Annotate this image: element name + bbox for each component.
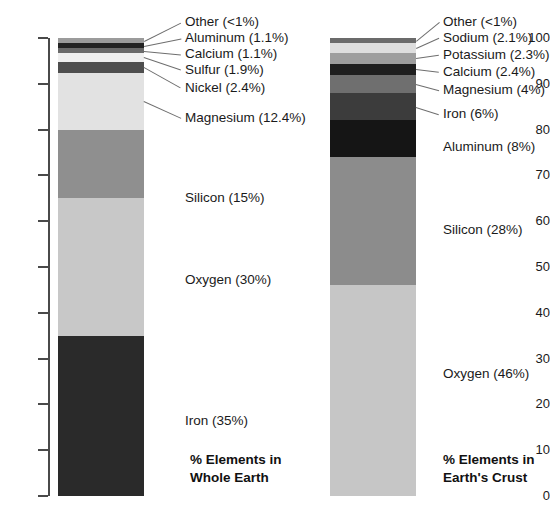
segment-whole-earth-oxygen[interactable] — [58, 198, 144, 335]
y-axis-label-70: 70 — [520, 168, 550, 181]
leader-line-earths-crust-sodium-2-1 — [416, 38, 439, 49]
y-axis-label-40: 40 — [520, 306, 550, 319]
label-whole-earth-iron: Iron (35%) — [185, 413, 248, 429]
label-earths-crust-sodium-2-1: Sodium (2.1%) — [443, 30, 532, 46]
segment-whole-earth-aluminum[interactable] — [58, 43, 144, 48]
leader-line-whole-earth-magnesium-12-4 — [144, 101, 181, 119]
y-axis-line — [48, 38, 50, 496]
y-axis-tick-60 — [38, 220, 48, 222]
y-axis-label-60: 60 — [520, 214, 550, 227]
caption-whole-earth-line2: Whole Earth — [190, 469, 282, 487]
caption-whole-earth-line1: % Elements in — [190, 451, 282, 469]
label-earths-crust-oxygen: Oxygen (46%) — [443, 366, 529, 382]
leader-line-earths-crust-iron-6 — [416, 107, 439, 115]
y-axis-tick-80 — [38, 129, 48, 131]
y-axis-label-30: 30 — [520, 352, 550, 365]
label-earths-crust-iron-6: Iron (6%) — [443, 106, 499, 122]
y-axis-label-0: 0 — [520, 489, 550, 502]
segment-earths-crust-oxygen[interactable] — [330, 285, 416, 496]
label-whole-earth-other-1: Other (<1%) — [185, 14, 259, 30]
label-whole-earth-nickel-2-4: Nickel (2.4%) — [185, 80, 265, 96]
y-axis-label-50: 50 — [520, 260, 550, 273]
y-axis-tick-50 — [38, 266, 48, 268]
y-axis-tick-30 — [38, 358, 48, 360]
segment-whole-earth-calcium[interactable] — [58, 48, 144, 53]
leader-line-earths-crust-magnesium-4 — [416, 84, 439, 91]
label-whole-earth-magnesium-12-4: Magnesium (12.4%) — [185, 110, 306, 126]
segment-whole-earth-iron[interactable] — [58, 336, 144, 496]
leader-line-earths-crust-potassium-2-3 — [416, 55, 439, 59]
segment-whole-earth-magnesium[interactable] — [58, 73, 144, 130]
label-earths-crust-potassium-2-3: Potassium (2.3%) — [443, 47, 550, 63]
leader-line-whole-earth-sulfur-1-9 — [144, 57, 181, 70]
segment-whole-earth-nickel[interactable] — [58, 62, 144, 73]
label-earths-crust-silicon: Silicon (28%) — [443, 222, 523, 238]
leader-line-earths-crust-calcium-2-4 — [416, 69, 439, 73]
segment-earths-crust-calcium[interactable] — [330, 64, 416, 75]
label-whole-earth-calcium-1-1: Calcium (1.1%) — [185, 46, 277, 62]
segment-earths-crust-magnesium[interactable] — [330, 75, 416, 93]
y-axis-tick-100 — [38, 37, 48, 39]
segment-earths-crust-potassium[interactable] — [330, 53, 416, 64]
label-whole-earth-aluminum-1-1: Aluminum (1.1%) — [185, 30, 289, 46]
segment-whole-earth-other[interactable] — [58, 38, 144, 43]
y-axis-label-20: 20 — [520, 397, 550, 410]
label-earths-crust-other-1: Other (<1%) — [443, 14, 517, 30]
segment-earths-crust-other[interactable] — [330, 38, 416, 43]
leader-line-whole-earth-calcium-1-1 — [144, 51, 181, 55]
y-axis-tick-0 — [38, 495, 48, 497]
label-whole-earth-oxygen: Oxygen (30%) — [185, 272, 271, 288]
y-axis-label-80: 80 — [520, 123, 550, 136]
segment-earths-crust-iron[interactable] — [330, 93, 416, 120]
segment-earths-crust-silicon[interactable] — [330, 157, 416, 285]
label-earths-crust-calcium-2-4: Calcium (2.4%) — [443, 64, 535, 80]
segment-earths-crust-sodium[interactable] — [330, 43, 416, 53]
chart-canvas: 1009080706050403020100 Silicon (15%)Oxyg… — [0, 0, 550, 506]
segment-whole-earth-sulfur[interactable] — [58, 53, 144, 62]
label-earths-crust-aluminum: Aluminum (8%) — [443, 139, 535, 155]
label-earths-crust-magnesium-4: Magnesium (4%) — [443, 82, 545, 98]
segment-earths-crust-aluminum[interactable] — [330, 120, 416, 157]
y-axis-tick-40 — [38, 312, 48, 314]
caption-earths-crust-line1: % Elements in — [443, 451, 535, 469]
y-axis-tick-70 — [38, 174, 48, 176]
caption-whole-earth: % Elements in Whole Earth — [190, 451, 282, 487]
caption-earths-crust: % Elements in Earth's Crust — [443, 451, 535, 487]
bar-whole-earth[interactable] — [58, 38, 144, 496]
bar-earths-crust[interactable] — [330, 38, 416, 496]
label-whole-earth-sulfur-1-9: Sulfur (1.9%) — [185, 62, 264, 78]
y-axis-tick-10 — [38, 449, 48, 451]
y-axis-tick-90 — [38, 83, 48, 85]
segment-whole-earth-silicon[interactable] — [58, 130, 144, 199]
label-whole-earth-silicon: Silicon (15%) — [185, 190, 265, 206]
caption-earths-crust-line2: Earth's Crust — [443, 469, 535, 487]
leader-line-whole-earth-nickel-2-4 — [144, 67, 181, 89]
y-axis-tick-20 — [38, 403, 48, 405]
